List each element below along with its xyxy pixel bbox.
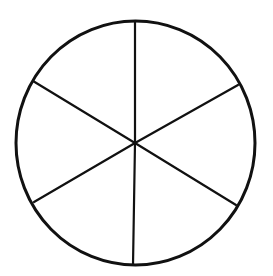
sector-divider-line [33,81,135,143]
sector-divider-line [135,85,238,143]
sector-dividers [33,21,238,265]
sector-divider-line [135,143,236,205]
divided-circle-diagram [0,0,273,276]
sector-divider-line [133,143,135,265]
sector-divider-line [34,143,135,202]
